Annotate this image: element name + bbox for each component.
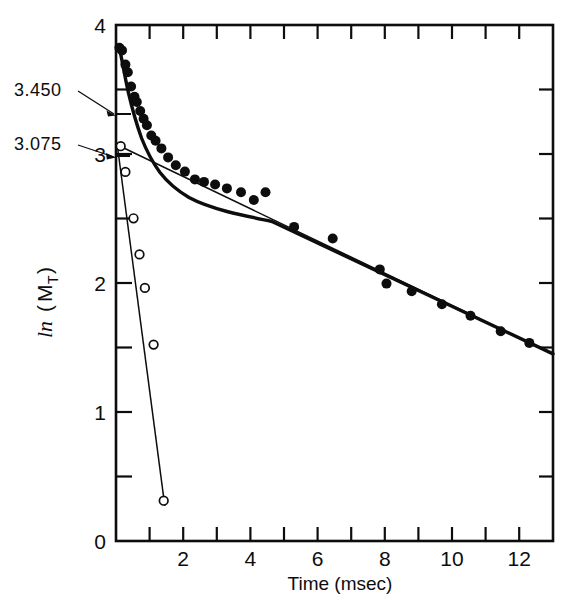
data-point: [121, 168, 130, 177]
y-axis-title-open-paren: (: [33, 305, 56, 312]
data-point: [117, 45, 127, 55]
data-point: [222, 183, 232, 193]
y-tick-label-2: 2: [94, 272, 106, 295]
data-point: [123, 67, 133, 77]
data-point: [135, 250, 144, 259]
data-point: [466, 311, 476, 321]
y-axis-title-symbol: M: [33, 285, 56, 303]
data-point: [524, 338, 534, 348]
y-axis-title-subscript: T: [45, 275, 61, 284]
data-point: [142, 120, 152, 130]
data-point: [261, 187, 271, 197]
y-axis-title-close-paren: ): [33, 267, 56, 274]
kinetics-semilog-plot: 2 4 6 8 10 12 0 1 2 3 4 Time (msec) ln (…: [0, 0, 575, 597]
data-point: [249, 195, 259, 205]
data-point: [210, 180, 220, 190]
data-point: [236, 187, 246, 197]
y-axis-ticks-right: [539, 90, 553, 477]
plot-frame: [116, 25, 553, 541]
y-tick-label-0: 0: [94, 530, 106, 553]
data-point: [289, 222, 299, 232]
data-point: [141, 284, 150, 293]
data-point: [180, 167, 190, 177]
annotation-3450-label: 3.450: [14, 80, 62, 100]
data-point: [171, 160, 181, 170]
data-point: [126, 82, 136, 92]
x-axis-title: Time (msec): [288, 573, 393, 594]
annotation-3450: 3.450: [14, 80, 131, 117]
y-axis-title: ln ( M T ): [32, 267, 61, 338]
data-point: [132, 97, 142, 107]
data-point: [199, 177, 209, 187]
data-point: [382, 279, 392, 289]
y-tick-label-1: 1: [94, 401, 106, 424]
x-tick-label-2: 2: [177, 547, 189, 570]
fast-phase-fit-line: [117, 143, 165, 506]
data-point: [116, 142, 125, 151]
annotation-3075: 3.075: [14, 134, 130, 159]
x-tick-label-12: 12: [508, 547, 531, 570]
x-tick-label-8: 8: [379, 547, 391, 570]
x-tick-label-4: 4: [245, 547, 257, 570]
data-point: [159, 496, 168, 505]
chart-svg: 2 4 6 8 10 12 0 1 2 3 4 Time (msec) ln (…: [0, 0, 575, 597]
data-point: [407, 286, 417, 296]
data-point: [129, 214, 138, 223]
annotation-3075-label: 3.075: [14, 134, 62, 154]
data-point: [190, 174, 200, 184]
y-tick-label-4: 4: [94, 14, 106, 37]
data-point: [496, 326, 506, 336]
biexponential-decay-curve: [119, 48, 553, 354]
y-tick-label-3: 3: [94, 143, 106, 166]
data-point: [149, 340, 158, 349]
x-axis-ticks-bottom: [150, 527, 520, 541]
data-series-filled-circles: [114, 43, 534, 348]
y-axis-title-ln: ln: [32, 321, 57, 338]
x-tick-label-6: 6: [312, 547, 324, 570]
data-point: [163, 152, 173, 162]
data-point: [328, 234, 338, 244]
data-point: [437, 299, 447, 309]
x-tick-label-10: 10: [440, 547, 463, 570]
data-point: [375, 264, 385, 274]
x-axis-ticks-top: [150, 25, 520, 39]
data-point: [156, 143, 166, 153]
